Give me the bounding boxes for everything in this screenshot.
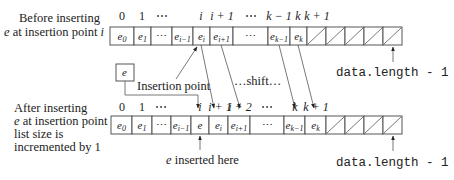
index-label: ⋯ xyxy=(245,9,257,23)
insertion-point-arrow xyxy=(176,47,197,79)
shift-arrow-ei xyxy=(201,45,214,108)
array-cell: ei xyxy=(209,116,228,134)
array-cell: ⋯ xyxy=(233,27,268,45)
index-label: 0 xyxy=(119,100,125,114)
after-array: e0e1⋯ei−1eeiei+1⋯ek−1ek xyxy=(111,116,402,134)
new-element: e xyxy=(116,64,134,81)
cell-value: ⋯ xyxy=(245,30,256,42)
after-capacity-label: data.length - 1 xyxy=(336,156,449,170)
array-cell: e1 xyxy=(134,27,151,45)
empty-cell xyxy=(345,27,364,45)
index-label: ⋯ xyxy=(155,100,167,114)
array-cell: e1 xyxy=(132,116,152,134)
before-capacity-label: data.length - 1 xyxy=(336,66,449,80)
array-cell: ei−1 xyxy=(172,27,193,45)
after-index-labels: 01⋯ii + 1i + 2⋯kk + 1 xyxy=(119,100,329,114)
empty-cell xyxy=(345,116,364,134)
before-label-line1: Before inserting xyxy=(19,11,101,25)
before-capacity-pointer: data.length - 1 xyxy=(336,47,449,80)
before-index-labels: 01⋯ii + 1⋯k − 1kk + 1 xyxy=(119,9,330,23)
array-cell: ek xyxy=(305,116,326,134)
array-cell: ei−1 xyxy=(171,116,191,134)
cell-value: ⋯ xyxy=(262,119,273,131)
shift-arrow-ek xyxy=(298,45,314,108)
array-cell: ek−1 xyxy=(268,27,290,45)
array-cell: ⋯ xyxy=(250,116,284,134)
before-array: e0e1⋯ei−1eiei+1⋯ek−1ek xyxy=(110,27,402,45)
after-label-line3: list size is xyxy=(14,127,63,141)
inserted-here-label: e inserted here xyxy=(166,153,239,167)
array-cell: ek−1 xyxy=(284,116,305,134)
shift-arrow-ek1 xyxy=(279,45,295,108)
empty-cell xyxy=(326,27,345,45)
index-label: k xyxy=(292,100,298,114)
array-cell: ek xyxy=(290,27,307,45)
array-cell: ei+1 xyxy=(210,27,233,45)
index-label: k + 1 xyxy=(304,9,329,23)
cell-value: ⋯ xyxy=(156,30,167,42)
cell-value: e xyxy=(198,119,203,131)
index-label: k + 1 xyxy=(303,100,328,114)
inserted-pointer: e inserted here xyxy=(166,136,239,167)
before-label-line2: e at insertion point i xyxy=(4,25,105,39)
empty-cell xyxy=(364,27,383,45)
empty-cell xyxy=(383,116,402,134)
array-insertion-diagram: Before inserting e at insertion point i … xyxy=(0,0,454,180)
array-cell: e0 xyxy=(110,27,134,45)
after-label-line4: incremented by 1 xyxy=(14,140,101,154)
cell-value: ⋯ xyxy=(156,119,167,131)
array-cell: ei xyxy=(193,27,210,45)
array-cell: ei+1 xyxy=(228,116,250,134)
index-label: k − 1 xyxy=(266,9,291,23)
index-label: k xyxy=(295,9,301,23)
insertion-point-label: Insertion point xyxy=(137,79,211,93)
empty-cell xyxy=(307,27,326,45)
index-label: i + 2 xyxy=(228,100,251,114)
after-capacity-pointer: data.length - 1 xyxy=(336,136,449,170)
array-cell: ⋯ xyxy=(151,27,172,45)
after-label-line2: e at insertion point i, xyxy=(14,114,117,128)
index-label: i + 1 xyxy=(210,9,233,23)
empty-cell xyxy=(326,116,345,134)
after-label: After inserting e at insertion point i, … xyxy=(14,101,117,154)
index-label: ⋯ xyxy=(261,100,273,114)
array-cell: e0 xyxy=(111,116,132,134)
index-label: ⋯ xyxy=(156,9,168,23)
new-element-label: e xyxy=(122,66,127,78)
index-label: i xyxy=(199,9,202,23)
after-label-line1: After inserting xyxy=(14,101,88,115)
empty-cell xyxy=(364,116,383,134)
empty-cell xyxy=(383,27,402,45)
index-label: i xyxy=(198,100,201,114)
index-label: 0 xyxy=(119,9,125,23)
array-cell: ⋯ xyxy=(152,116,171,134)
array-cell: e xyxy=(191,116,209,134)
index-label: 1 xyxy=(139,100,145,114)
before-label: Before inserting e at insertion point i xyxy=(4,11,105,39)
index-label: 1 xyxy=(139,9,145,23)
shift-label: …shift… xyxy=(234,74,281,88)
